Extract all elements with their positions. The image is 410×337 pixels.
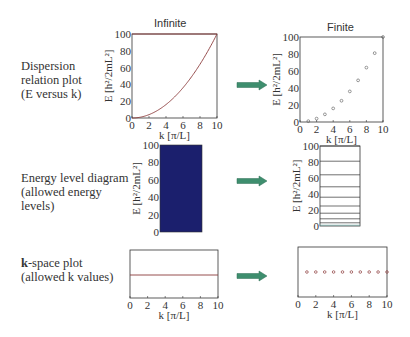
y-tick-label: 20 xyxy=(288,99,300,111)
y-tick-label: 60 xyxy=(308,172,320,184)
allowed-k-point xyxy=(341,271,344,274)
x-tick-label: 10 xyxy=(382,298,394,310)
data-point xyxy=(348,90,351,93)
data-point xyxy=(373,52,376,55)
arrow-energy-levels xyxy=(237,176,267,186)
y-axis-label: E [h²/2mL²] xyxy=(102,50,114,103)
x-tick-label: 2 xyxy=(146,119,152,131)
y-axis-label: E [h²/2mL²] xyxy=(130,162,142,215)
y-tick-label: 80 xyxy=(148,156,160,168)
continuous-energy-band xyxy=(160,145,202,232)
y-tick-label: 80 xyxy=(308,156,320,168)
allowed-k-point xyxy=(350,271,353,274)
chart-infinite-dispersion: 0246810k [π/L]020406080100E [h²/2mL²] xyxy=(102,28,223,141)
x-axis-label: k [π/L] xyxy=(326,133,357,145)
data-point xyxy=(340,99,343,102)
data-point xyxy=(324,113,327,116)
y-tick-label: 100 xyxy=(143,139,160,151)
chart-finite-energy-levels: 020406080100E [h²/2mL²] xyxy=(290,140,360,232)
y-tick-label: 60 xyxy=(120,62,132,74)
plot-frame xyxy=(320,146,360,226)
x-axis-label: k [π/L] xyxy=(159,129,190,141)
x-tick-label: 8 xyxy=(197,119,203,131)
x-tick-label: 0 xyxy=(295,298,301,310)
x-tick-label: 10 xyxy=(213,299,225,311)
x-tick-label: 8 xyxy=(198,299,204,311)
y-tick-label: 100 xyxy=(283,31,300,43)
x-tick-label: 2 xyxy=(314,123,320,135)
allowed-k-point xyxy=(359,271,362,274)
figure-canvas: 0246810k [π/L]020406080100E [h²/2mL²]024… xyxy=(0,0,410,337)
y-tick-label: 40 xyxy=(308,188,320,200)
data-point xyxy=(315,117,318,120)
y-tick-label: 0 xyxy=(126,112,132,124)
chart-finite-k-space: 0246810k [π/L] xyxy=(295,247,393,320)
allowed-k-point xyxy=(315,271,318,274)
plot-frame xyxy=(298,247,387,297)
y-tick-label: 20 xyxy=(120,95,132,107)
x-tick-label: 8 xyxy=(364,123,370,135)
x-tick-label: 10 xyxy=(378,123,390,135)
arrow-right-icon xyxy=(237,80,267,90)
y-tick-label: 40 xyxy=(148,191,160,203)
y-tick-label: 80 xyxy=(288,48,300,60)
data-point xyxy=(365,66,368,69)
plot-frame xyxy=(300,37,383,122)
x-tick-label: 2 xyxy=(313,298,319,310)
y-tick-label: 0 xyxy=(314,220,320,232)
x-tick-label: 0 xyxy=(127,299,133,311)
y-tick-label: 60 xyxy=(288,65,300,77)
allowed-k-point xyxy=(323,271,326,274)
y-tick-label: 80 xyxy=(120,45,132,57)
arrow-dispersion xyxy=(237,80,267,90)
y-tick-label: 20 xyxy=(148,209,160,221)
y-axis-label: E [h²/2mL²] xyxy=(270,53,282,106)
arrow-k-space xyxy=(237,271,267,281)
x-tick-label: 10 xyxy=(212,119,224,131)
dispersion-curve xyxy=(132,34,217,118)
allowed-k-point xyxy=(377,271,380,274)
y-tick-label: 0 xyxy=(154,226,160,238)
y-axis-label: E [h²/2mL²] xyxy=(290,160,302,213)
x-axis-label: k [π/L] xyxy=(327,308,358,320)
y-tick-label: 40 xyxy=(288,82,300,94)
chart-infinite-energy-levels: 020406080100E [h²/2mL²] xyxy=(130,139,202,238)
chart-infinite-k-space: 0246810k [π/L] xyxy=(127,250,224,321)
allowed-k-point xyxy=(332,271,335,274)
allowed-k-point xyxy=(306,271,309,274)
arrow-right-icon xyxy=(237,176,267,186)
y-tick-label: 40 xyxy=(120,78,132,90)
y-tick-label: 100 xyxy=(115,28,132,40)
y-tick-label: 100 xyxy=(303,140,320,152)
arrow-right-icon xyxy=(237,271,267,281)
plot-frame xyxy=(132,34,217,118)
x-axis-label: k [π/L] xyxy=(159,309,190,321)
x-tick-label: 8 xyxy=(366,298,372,310)
plot-frame xyxy=(130,250,218,298)
data-point xyxy=(357,79,360,82)
y-tick-label: 0 xyxy=(294,116,300,128)
x-tick-label: 2 xyxy=(145,299,151,311)
allowed-k-point xyxy=(368,271,371,274)
y-tick-label: 20 xyxy=(308,204,320,216)
y-tick-label: 60 xyxy=(148,174,160,186)
chart-finite-dispersion: 0246810k [π/L]020406080100E [h²/2mL²] xyxy=(270,31,389,145)
data-point xyxy=(332,107,335,110)
